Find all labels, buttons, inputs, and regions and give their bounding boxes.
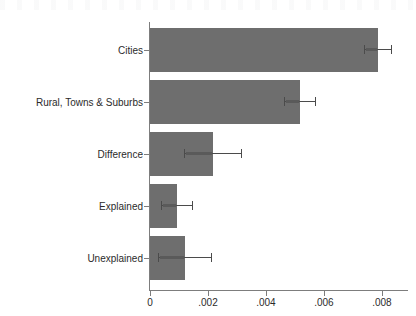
errorbar-cap-low	[184, 149, 185, 158]
errorbar-cap-high	[315, 97, 316, 106]
bar-rural-towns-suburbs	[150, 80, 300, 124]
category-label-unexplained: Unexplained	[87, 253, 143, 264]
errorbar-cities	[364, 45, 392, 54]
errorbar-stub	[366, 48, 377, 51]
bar-row	[150, 236, 408, 280]
bar-chart: Cities Rural, Towns & Suburbs Difference…	[0, 0, 416, 316]
value-tick-label-1: .002	[188, 297, 228, 309]
errorbar-stub	[186, 152, 212, 155]
errorbar-cap-low	[161, 201, 162, 210]
errorbar-stub	[163, 204, 176, 207]
errorbar-explained	[161, 201, 193, 210]
bar-row	[150, 132, 408, 176]
errorbar-cap-low	[284, 97, 285, 106]
value-tick-label-0: 0	[130, 297, 170, 309]
errorbar-cap-high	[241, 149, 242, 158]
errorbar-stub	[160, 256, 184, 259]
errorbar-cap-low	[364, 45, 365, 54]
bar-cities	[150, 28, 378, 72]
x-axis-line	[149, 290, 408, 291]
errorbar-unexplained	[158, 253, 212, 262]
category-label-difference: Difference	[98, 149, 143, 160]
value-tick-label-2: .004	[246, 297, 286, 309]
errorbar-difference	[184, 149, 242, 158]
value-tick-1	[208, 291, 209, 296]
errorbar-cap-high	[391, 45, 392, 54]
value-tick-label-3: .006	[304, 297, 344, 309]
category-label-explained: Explained	[99, 201, 143, 212]
bar-row	[150, 80, 408, 124]
plot-area	[150, 22, 408, 290]
value-tick-label-4: .008	[362, 297, 402, 309]
category-label-rural-towns-suburbs: Rural, Towns & Suburbs	[36, 97, 143, 108]
errorbar-cap-low	[158, 253, 159, 262]
value-tick-0	[150, 291, 151, 296]
errorbar-cap-high	[192, 201, 193, 210]
category-label-cities: Cities	[118, 45, 143, 56]
category-axis-labels: Cities Rural, Towns & Suburbs Difference…	[0, 0, 143, 316]
errorbar-stub	[286, 100, 299, 103]
bar-row	[150, 28, 408, 72]
value-tick-3	[324, 291, 325, 296]
errorbar-cap-high	[211, 253, 212, 262]
bar-row	[150, 184, 408, 228]
value-tick-2	[266, 291, 267, 296]
value-tick-4	[382, 291, 383, 296]
errorbar-rural-towns-suburbs	[284, 97, 316, 106]
